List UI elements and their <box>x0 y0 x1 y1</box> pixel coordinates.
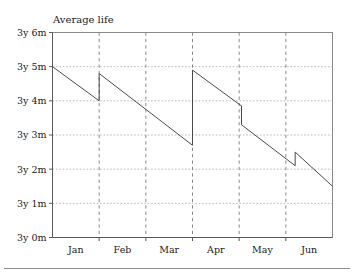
chart-title: Average life <box>52 14 114 25</box>
y-tick-label-2: 3y 2m <box>17 164 46 175</box>
x-tick-label-0: Jan <box>67 244 84 255</box>
x-tick-label-3: Apr <box>206 244 225 255</box>
y-axis-ticks: 3y 0m3y 1m3y 2m3y 3m3y 4m3y 5m3y 6m <box>17 27 52 243</box>
x-tick-label-1: Feb <box>114 244 132 255</box>
y-tick-label-3: 3y 3m <box>17 129 46 140</box>
y-tick-label-0: 3y 0m <box>17 232 46 243</box>
x-tick-label-2: Mar <box>159 244 179 255</box>
y-tick-label-1: 3y 1m <box>17 198 46 209</box>
average-life-chart: 3y 0m3y 1m3y 2m3y 3m3y 4m3y 5m3y 6m JanF… <box>0 0 354 275</box>
y-tick-label-6: 3y 6m <box>17 27 46 38</box>
x-tick-label-4: May <box>252 244 273 255</box>
x-axis-ticks: JanFebMarAprMayJun <box>67 238 317 255</box>
y-tick-label-4: 3y 4m <box>17 95 46 106</box>
x-tick-label-5: Jun <box>300 244 317 255</box>
chart-figure: 3y 0m3y 1m3y 2m3y 3m3y 4m3y 5m3y 6m JanF… <box>0 0 354 275</box>
y-tick-label-5: 3y 5m <box>17 61 46 72</box>
